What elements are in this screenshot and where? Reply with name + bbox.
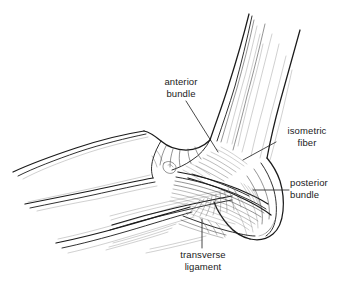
label-transverse-ligament: transverse ligament [168,249,238,272]
label-isometric-fiber-line1: isometric [278,125,336,137]
label-transverse-ligament-line2: ligament [168,261,238,273]
forearm-bones [13,131,232,253]
label-isometric-fiber: isometric fiber [278,125,336,148]
leader-isometric-fiber [243,142,276,160]
label-posterior-bundle-line2: bundle [290,189,340,201]
label-posterior-bundle: posterior bundle [290,177,340,200]
label-anterior-bundle-line2: bundle [152,88,210,100]
leader-anterior-bundle [186,101,218,152]
label-anterior-bundle-line1: anterior [152,76,210,88]
label-transverse-ligament-line1: transverse [168,249,238,261]
anatomical-figure: anterior bundle isometric fiber posterio… [0,0,341,283]
label-posterior-bundle-line1: posterior [290,177,340,189]
label-isometric-fiber-line2: fiber [278,137,336,149]
medial-epicondyle [144,131,210,178]
ucl-fiber-fan [183,147,261,216]
label-anterior-bundle: anterior bundle [152,76,210,99]
